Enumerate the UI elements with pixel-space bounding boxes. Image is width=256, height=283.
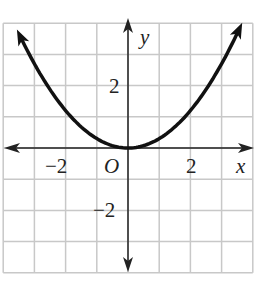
coordinate-plane bbox=[0, 0, 256, 283]
parabola-curve bbox=[20, 30, 238, 148]
x-axis-label: x bbox=[236, 156, 245, 177]
x-tick-label-2: 2 bbox=[186, 156, 197, 177]
origin-label: O bbox=[104, 156, 119, 177]
y-axis bbox=[123, 18, 133, 272]
y-axis-label: y bbox=[140, 27, 149, 48]
y-tick-label-neg2: −2 bbox=[93, 200, 115, 221]
y-tick-label-2: 2 bbox=[109, 76, 120, 97]
x-tick-label-neg2: −2 bbox=[45, 156, 67, 177]
